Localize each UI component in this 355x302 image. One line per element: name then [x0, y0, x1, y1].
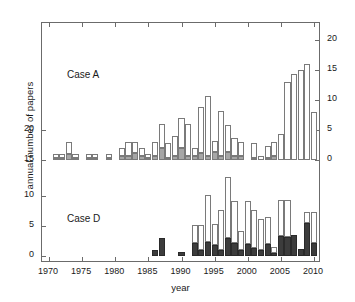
x-tick-1970	[49, 257, 50, 262]
y-right-tick-10	[315, 100, 320, 101]
bar-segment-shaded	[225, 238, 231, 256]
bar-segment-shaded	[152, 156, 158, 160]
bar-segment-open	[212, 141, 218, 152]
bar-segment-open	[192, 148, 198, 156]
x-tick-label-1975: 1975	[64, 266, 98, 276]
bar-segment-shaded	[291, 235, 297, 256]
bar-segment-open	[251, 210, 257, 247]
bar-segment-shaded	[152, 250, 158, 256]
bar-segment-open	[231, 138, 237, 156]
bar-segment-open	[304, 212, 310, 223]
bar-segment-open	[278, 134, 284, 160]
y-left-tick-10	[41, 196, 46, 197]
bar-segment-open	[86, 154, 92, 158]
y-right-tick-20	[315, 40, 320, 41]
bar-segment-shaded	[92, 158, 98, 160]
chart-figure: annual number of papers year Case A Case…	[0, 0, 355, 302]
bar-segment-open	[218, 111, 224, 157]
x-tick-2010	[314, 257, 315, 262]
bar-segment-open	[291, 74, 297, 160]
bar-segment-shaded	[165, 158, 171, 160]
y-left-tick-0	[41, 256, 46, 257]
x-tick-top-1970	[49, 22, 50, 27]
bar-segment-shaded	[205, 156, 211, 160]
x-tick-top-1975	[82, 22, 83, 27]
bar-segment-open	[311, 112, 317, 160]
bar-segment-open	[178, 118, 184, 148]
bar-segment-shaded	[212, 152, 218, 160]
bar-segment-open	[231, 201, 237, 243]
x-tick-label-1985: 1985	[130, 266, 164, 276]
bar-segment-shaded	[198, 250, 204, 256]
x-tick-1990	[182, 257, 183, 262]
bar-segment-shaded	[53, 158, 59, 160]
bar-segment-shaded	[185, 156, 191, 160]
bar-segment-shaded	[119, 156, 125, 160]
bar-segment-open	[271, 247, 277, 253]
bar-segment-shaded	[139, 156, 145, 160]
y-right-tick-label-20: 20	[327, 33, 349, 43]
bar-segment-open	[59, 154, 65, 158]
bar-segment-shaded	[66, 154, 72, 160]
y-left-tick-label-15: 15	[14, 153, 34, 163]
y-right-tick-label-5: 5	[327, 123, 349, 133]
bar-segment-shaded	[159, 238, 165, 256]
bar-segment-shaded	[125, 156, 131, 160]
y-right-tick-15	[315, 70, 320, 71]
x-tick-top-1995	[215, 22, 216, 27]
x-tick-label-2010: 2010	[296, 266, 330, 276]
bar-segment-shaded	[311, 243, 317, 256]
y-left-tick-label-0: 0	[14, 249, 34, 259]
bar-segment-open	[205, 195, 211, 241]
bar-segment-shaded	[205, 242, 211, 256]
bar-segment-shaded	[238, 250, 244, 256]
bar-segment-shaded	[298, 249, 304, 256]
bar-segment-open	[238, 142, 244, 156]
x-axis-title: year	[41, 282, 320, 293]
bar-segment-open	[258, 156, 264, 160]
bar-segment-open	[238, 231, 244, 250]
bar-segment-open	[92, 154, 98, 158]
y-right-tick-label-0: 0	[327, 153, 349, 163]
bar-segment-shaded	[284, 237, 290, 256]
bar-segment-shaded	[251, 158, 257, 160]
bar-segment-open	[125, 142, 131, 156]
bar-segment-shaded	[225, 152, 231, 160]
y-left-tick-label-5: 5	[14, 219, 34, 229]
panel-label-case-d: Case D	[67, 213, 100, 224]
bar-segment-shaded	[145, 158, 151, 160]
x-tick-label-2000: 2000	[230, 266, 264, 276]
y-left-tick-label-10: 10	[14, 189, 34, 199]
bar-segment-shaded	[218, 156, 224, 160]
bar-segment-open	[165, 143, 171, 157]
plot-area: Case A Case D	[41, 22, 320, 262]
bar-segment-open	[225, 125, 231, 151]
bar-segment-shaded	[212, 245, 218, 256]
x-tick-label-1990: 1990	[164, 266, 198, 276]
bar-segment-shaded	[258, 250, 264, 256]
bar-segment-shaded	[231, 156, 237, 160]
bar-segment-open	[298, 70, 304, 160]
bar-segment-shaded	[106, 158, 112, 160]
bar-segment-open	[145, 154, 151, 158]
x-tick-label-2005: 2005	[263, 266, 297, 276]
bar-segment-shaded	[278, 236, 284, 256]
x-tick-top-2010	[314, 22, 315, 27]
bar-segment-open	[192, 225, 198, 243]
y-left-tick-15	[41, 160, 46, 161]
x-tick-label-1970: 1970	[31, 266, 65, 276]
bar-segment-open	[119, 148, 125, 156]
bar-segment-open	[185, 124, 191, 156]
bar-segment-open	[66, 142, 72, 154]
bar-segment-open	[152, 142, 158, 156]
bar-segment-open	[72, 154, 78, 158]
bar-segment-open	[284, 82, 290, 160]
bar-segment-shaded	[59, 158, 65, 160]
bar-segment-open	[304, 64, 310, 160]
x-tick-top-1990	[182, 22, 183, 27]
bar-segment-open	[251, 143, 257, 157]
bar-segment-shaded	[271, 156, 277, 160]
bar-segment-shaded	[72, 158, 78, 160]
bar-segment-open	[132, 142, 138, 153]
bar-segment-shaded	[251, 248, 257, 256]
